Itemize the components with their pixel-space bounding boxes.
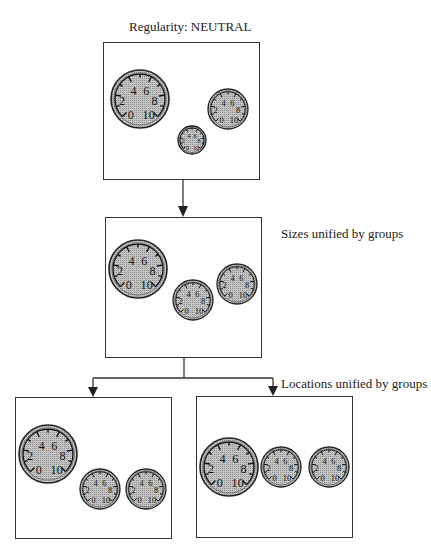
svg-text:10: 10 [51,463,63,477]
gauge-icon: 0246810 [111,70,169,128]
svg-text:10: 10 [283,474,291,483]
svg-text:4: 4 [220,452,226,466]
svg-text:8: 8 [236,106,240,115]
gauge-icon: 0246810 [173,280,213,320]
svg-text:2: 2 [132,486,136,495]
svg-text:8: 8 [198,138,201,144]
svg-text:0: 0 [128,108,134,122]
svg-text:2: 2 [179,297,183,306]
svg-text:8: 8 [154,486,158,495]
svg-text:8: 8 [201,297,205,306]
svg-text:0: 0 [273,474,277,483]
svg-text:10: 10 [193,145,199,151]
gauges-layer: 0246810024681002468100246810024681002468… [0,0,431,553]
gauge-icon: 0246810 [126,469,166,509]
svg-text:2: 2 [86,486,90,495]
svg-text:2: 2 [223,281,227,290]
svg-text:0: 0 [185,307,189,316]
gauge-icon: 0246810 [309,447,349,487]
gauge-icon: 0246810 [217,264,257,304]
svg-text:10: 10 [195,307,203,316]
svg-text:8: 8 [337,464,341,473]
svg-text:2: 2 [214,106,218,115]
svg-text:2: 2 [117,264,123,278]
svg-text:6: 6 [141,254,147,268]
svg-text:8: 8 [59,449,65,463]
gauge-icon: 0246810 [200,438,258,496]
svg-text:10: 10 [148,496,156,505]
svg-text:6: 6 [230,99,234,108]
svg-text:2: 2 [182,138,185,144]
gauge-icon: 0246810 [261,447,301,487]
svg-text:4: 4 [129,254,135,268]
svg-text:6: 6 [232,452,238,466]
gauge-icon: 0246810 [19,425,77,483]
svg-text:0: 0 [321,474,325,483]
svg-text:4: 4 [39,439,45,453]
svg-text:10: 10 [232,476,244,490]
gauge-icon: 0246810 [80,469,120,509]
svg-text:0: 0 [186,145,189,151]
svg-text:0: 0 [217,476,223,490]
svg-text:8: 8 [149,264,155,278]
svg-text:8: 8 [108,486,112,495]
svg-text:10: 10 [239,291,247,300]
svg-text:10: 10 [143,108,155,122]
svg-text:0: 0 [220,116,224,125]
svg-text:0: 0 [126,278,132,292]
svg-text:8: 8 [240,462,246,476]
svg-text:10: 10 [141,278,153,292]
svg-text:6: 6 [194,133,197,139]
svg-text:6: 6 [195,290,199,299]
svg-text:6: 6 [143,84,149,98]
svg-text:8: 8 [151,94,157,108]
svg-text:8: 8 [245,281,249,290]
svg-text:6: 6 [239,274,243,283]
svg-text:10: 10 [230,116,238,125]
svg-text:2: 2 [119,94,125,108]
svg-text:2: 2 [208,462,214,476]
svg-text:0: 0 [92,496,96,505]
svg-text:2: 2 [315,464,319,473]
svg-text:6: 6 [102,479,106,488]
svg-text:6: 6 [283,457,287,466]
svg-text:0: 0 [229,291,233,300]
svg-text:0: 0 [36,463,42,477]
svg-text:2: 2 [27,449,33,463]
svg-text:6: 6 [51,439,57,453]
gauge-icon: 0246810 [109,240,167,298]
svg-text:0: 0 [138,496,142,505]
gauge-icon: 0246810 [178,126,206,154]
svg-text:10: 10 [331,474,339,483]
svg-text:6: 6 [148,479,152,488]
svg-text:8: 8 [289,464,293,473]
svg-text:6: 6 [331,457,335,466]
svg-text:4: 4 [131,84,137,98]
svg-text:4: 4 [187,133,190,139]
gauge-icon: 0246810 [208,89,248,129]
svg-text:10: 10 [102,496,110,505]
svg-text:2: 2 [267,464,271,473]
